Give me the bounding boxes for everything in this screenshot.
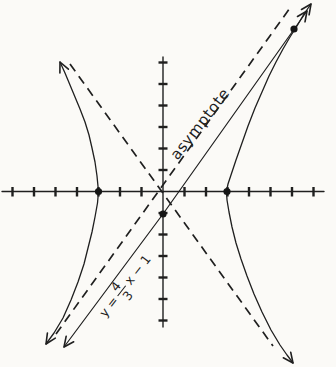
asymptote-label: asymptote xyxy=(167,85,234,164)
hyperbola-right-branch xyxy=(227,4,312,363)
secant-line xyxy=(64,11,307,347)
hyperbola-figure: asymptote y = 4 3 x − 1 xyxy=(0,0,336,367)
asymptote-line-positive-slope xyxy=(56,8,290,334)
left-vertex-dot xyxy=(95,188,102,195)
equation-label-group: y = 4 3 x − 1 xyxy=(91,248,161,325)
right-vertex-dot xyxy=(223,188,230,195)
asymptote-label-group: asymptote xyxy=(167,85,234,164)
equation-suffix: x − 1 xyxy=(121,252,154,288)
hyperbola-graph-canvas: asymptote y = 4 3 x − 1 xyxy=(0,0,336,367)
arrowhead-line-bottom xyxy=(64,336,74,347)
equation-fraction-denominator: 3 xyxy=(119,288,136,304)
intersection-dot xyxy=(290,25,297,32)
hyperbola-left-branch xyxy=(46,62,99,344)
y-intercept-dot xyxy=(159,210,166,217)
equation-prefix: y = xyxy=(96,293,121,319)
